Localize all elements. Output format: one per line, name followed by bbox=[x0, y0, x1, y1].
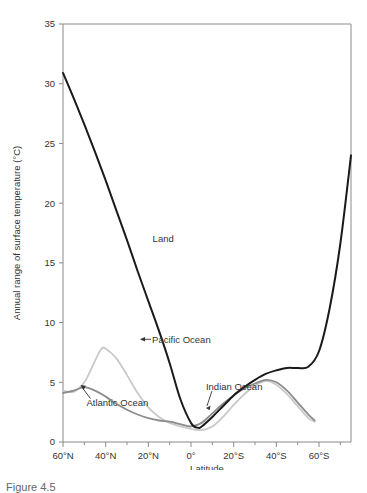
y-tick-label: 15 bbox=[44, 257, 55, 268]
indian-arrow-head bbox=[206, 406, 211, 411]
x-axis-ticks: 60°N40°N20°N0°20°S40°S60°S bbox=[52, 442, 340, 461]
y-tick-label: 20 bbox=[44, 198, 55, 209]
land-label: Land bbox=[153, 233, 174, 244]
curve-land bbox=[63, 73, 351, 428]
x-tick-label: 60°N bbox=[52, 450, 73, 461]
data-curves bbox=[63, 73, 351, 430]
x-tick-label: 40°S bbox=[266, 450, 287, 461]
x-axis-title: Latitude bbox=[190, 463, 224, 470]
x-tick-label: 60°S bbox=[309, 450, 330, 461]
y-tick-label: 25 bbox=[44, 138, 55, 149]
y-tick-label: 0 bbox=[50, 436, 55, 447]
y-tick-label: 35 bbox=[44, 18, 55, 29]
y-axis-ticks: 05101520253035 bbox=[44, 18, 63, 447]
atlantic-ocean-label: Atlantic Ocean bbox=[86, 397, 148, 408]
indian-ocean-label: Indian Ocean bbox=[206, 381, 263, 392]
y-tick-label: 5 bbox=[50, 377, 55, 388]
x-tick-label: 0° bbox=[186, 450, 195, 461]
pacific-ocean-label: Pacific Ocean bbox=[152, 334, 211, 345]
pacific-arrow-head bbox=[140, 337, 145, 341]
series-annotations: LandPacific OceanAtlantic OceanIndian Oc… bbox=[80, 233, 262, 410]
indian-arrow-line bbox=[207, 391, 212, 406]
y-tick-label: 30 bbox=[44, 78, 55, 89]
figure-caption: Figure 4.5 bbox=[6, 481, 56, 493]
y-axis-title: Annual range of surface temperature (°C) bbox=[11, 146, 22, 320]
temperature-range-chart: 05101520253035 60°N40°N20°N0°20°S40°S60°… bbox=[0, 0, 367, 470]
x-tick-label: 40°N bbox=[95, 450, 116, 461]
x-tick-label: 20°S bbox=[223, 450, 244, 461]
figure-container: 05101520253035 60°N40°N20°N0°20°S40°S60°… bbox=[0, 0, 367, 493]
y-tick-label: 10 bbox=[44, 317, 55, 328]
x-tick-label: 20°N bbox=[138, 450, 159, 461]
axes-group bbox=[63, 24, 351, 442]
